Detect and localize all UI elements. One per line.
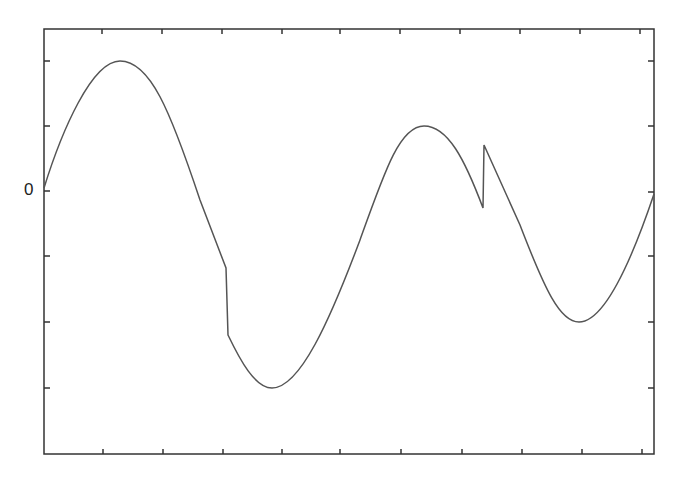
- plot-frame: [44, 29, 654, 454]
- line-chart: [0, 0, 678, 478]
- y-axis-zero-label: 0: [24, 180, 33, 200]
- signal-line: [44, 61, 654, 388]
- y-ticks-left: [44, 61, 50, 388]
- y-ticks-right: [648, 61, 654, 388]
